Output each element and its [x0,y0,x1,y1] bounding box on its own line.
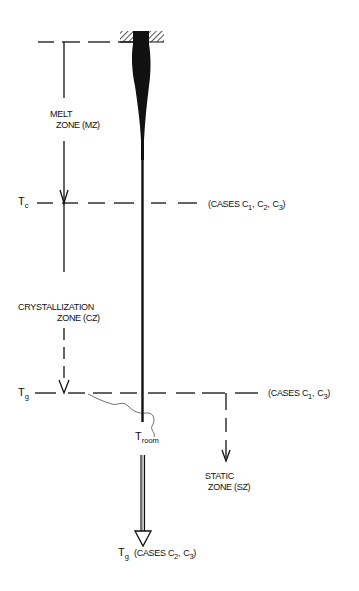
static-zone-arrow [222,393,230,461]
drawn-fiber-arrow [135,455,151,546]
tg-bottom-label: Tg [118,546,129,561]
static-zone-label-line2: ZONE (SZ) [208,482,251,492]
melt-zone-label-line1: MELT [50,109,73,119]
preform-neckdown-shape [132,31,151,160]
troom-label: Troom [135,430,159,445]
fiber-drawing-zones-diagram: MELT ZONE (MZ) Tc (CASES C1,C2,C3) CRYST… [0,0,359,591]
tc-cases-label: (CASES C1,C2,C3) [208,199,286,212]
tg-label: Tg [18,386,29,401]
crystallization-zone-label-line1: CRYSTALLIZATION [18,302,94,312]
crystallization-zone-arrow [59,328,69,393]
tc-label: Tc [18,195,29,210]
static-zone-label-line1: STATIC [205,471,235,481]
tg-cases-label: (CASES C1,C3) [268,388,330,401]
cooling-curve [88,394,154,437]
melt-zone-label-line2: ZONE (MZ) [56,120,100,130]
melt-zone-dimension [60,42,68,272]
tg-bottom-cases-label: (CASES C2,C3) [134,548,196,561]
crystallization-zone-label-line2: ZONE (CZ) [57,313,100,323]
